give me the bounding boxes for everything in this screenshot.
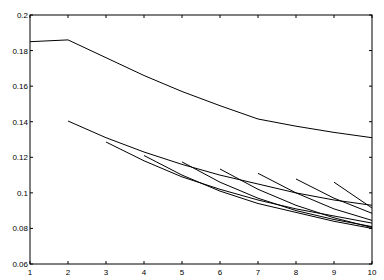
y-tick-label: 0.14 [12,118,28,127]
series-layer [30,40,372,229]
y-tick-labels: 0.060.080.10.120.140.160.180.2 [12,11,28,269]
y-tick-label: 0.18 [12,47,28,56]
x-tick-label: 7 [256,268,261,277]
y-tick-label: 0.06 [12,260,28,269]
x-tick-labels: 12345678910 [28,268,377,277]
line-chart: 0.060.080.10.120.140.160.180.2 123456789… [0,0,384,280]
y-tick-label: 0.1 [17,189,29,198]
plot-frame [30,15,372,264]
y-tick-label: 0.16 [12,82,28,91]
x-tick-label: 1 [28,268,33,277]
series-1-line [30,40,372,138]
series-3-line [106,142,372,223]
x-tick-label: 8 [294,268,299,277]
x-tick-label: 4 [142,268,147,277]
x-tick-label: 9 [332,268,337,277]
series-5-line [182,162,372,227]
y-tick-label: 0.08 [12,224,28,233]
y-tick-label: 0.12 [12,153,28,162]
series-2-line [68,121,372,205]
axis-ticks [30,15,372,264]
x-tick-label: 3 [104,268,109,277]
x-tick-label: 10 [368,268,377,277]
series-9-line [334,182,372,208]
y-tick-label: 0.2 [17,11,29,20]
series-8-line [296,179,372,213]
x-tick-label: 5 [180,268,185,277]
x-tick-label: 6 [218,268,223,277]
x-tick-label: 2 [66,268,71,277]
series-4-line [144,156,372,229]
